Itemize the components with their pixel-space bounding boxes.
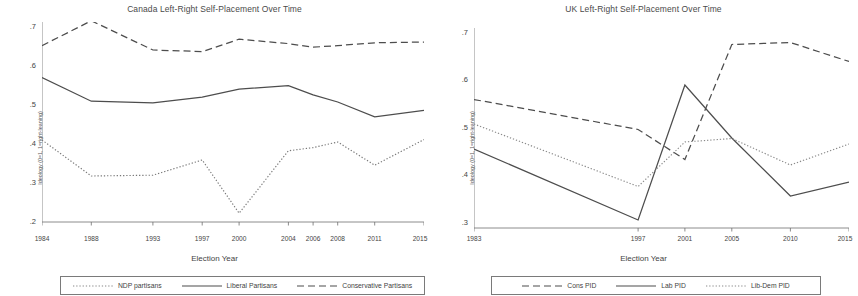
x-tick-label: 2015 — [413, 235, 428, 242]
chart-title-uk: UK Left-Right Self-Placement Over Time — [429, 4, 858, 14]
x-tick-label: 2010 — [783, 235, 798, 242]
plot-area-canada — [42, 22, 424, 232]
x-tick-label: 2000 — [232, 235, 247, 242]
legend-label: Liberal Partisans — [227, 282, 278, 289]
legend-item-lab-pid: Lab PID — [616, 282, 686, 289]
series-line-ndp-partisans — [42, 140, 424, 214]
x-tick-label: 1993 — [146, 235, 161, 242]
x-tick-label: 2015 — [838, 235, 853, 242]
legend-label: Conservative Partisans — [342, 282, 412, 289]
dotted-line-icon — [706, 283, 746, 289]
legend-item-conservative-partisans: Conservative Partisans — [297, 282, 412, 289]
legend-label: Cons PID — [567, 282, 596, 289]
plot-area-uk — [474, 28, 849, 238]
x-axis-label-uk: Election Year — [429, 254, 858, 263]
x-tick-label: 1984 — [35, 235, 50, 242]
y-tick-label: .6 — [14, 61, 36, 70]
x-tick-label: 2011 — [368, 235, 382, 242]
y-tick-label: .4 — [14, 139, 36, 148]
y-tick-label: .3 — [446, 218, 468, 227]
y-tick-label: .2 — [14, 217, 36, 226]
dashed-line-icon — [522, 283, 562, 289]
chart-panel-canada: Canada Left-Right Self-Placement Over Ti… — [0, 0, 429, 296]
figure-container: Canada Left-Right Self-Placement Over Ti… — [0, 0, 858, 296]
y-tick-label: .7 — [14, 22, 36, 31]
x-tick-label: 2004 — [281, 235, 296, 242]
dashed-line-icon — [297, 283, 337, 289]
x-tick-label: 2008 — [330, 235, 345, 242]
x-tick-label: 1988 — [84, 235, 99, 242]
legend-item-ndp-partisans: NDP partisans — [73, 282, 162, 289]
y-tick-label: .3 — [14, 178, 36, 187]
series-line-lib-dem-pid — [474, 124, 849, 187]
dotted-line-icon — [73, 283, 113, 289]
y-tick-label: .4 — [446, 170, 468, 179]
legend-item-liberal-partisans: Liberal Partisans — [182, 282, 278, 289]
x-tick-label: 1997 — [195, 235, 210, 242]
legend-item-lib-dem-pid: Lib-Dem PID — [706, 282, 790, 289]
legend-item-cons-pid: Cons PID — [522, 282, 596, 289]
x-axis-label-canada: Election Year — [0, 254, 429, 263]
legend-label: NDP partisans — [118, 282, 162, 289]
x-tick-label: 1997 — [631, 235, 646, 242]
legend-label: Lab PID — [661, 282, 686, 289]
series-line-conservative-partisans — [42, 22, 424, 52]
legend-label: Lib-Dem PID — [751, 282, 790, 289]
chart-panel-uk: UK Left-Right Self-Placement Over Time I… — [429, 0, 858, 296]
x-tick-label: 2006 — [306, 235, 321, 242]
x-tick-label: 2001 — [678, 235, 693, 242]
legend-uk: Cons PID Lab PID Lib-Dem PID — [491, 276, 821, 295]
x-tick-label: 1983 — [467, 235, 482, 242]
solid-line-icon — [182, 283, 222, 289]
series-line-lab-pid — [474, 85, 849, 220]
chart-title-canada: Canada Left-Right Self-Placement Over Ti… — [0, 4, 429, 14]
y-tick-label: .6 — [446, 75, 468, 84]
series-line-cons-pid — [474, 43, 849, 160]
legend-canada: NDP partisans Liberal Partisans Conserva… — [60, 276, 425, 295]
series-line-liberal-partisans — [42, 78, 424, 117]
y-tick-label: .5 — [14, 100, 36, 109]
y-tick-label: .5 — [446, 123, 468, 132]
solid-line-icon — [616, 283, 656, 289]
y-tick-label: .7 — [446, 28, 468, 37]
x-tick-label: 2005 — [724, 235, 739, 242]
